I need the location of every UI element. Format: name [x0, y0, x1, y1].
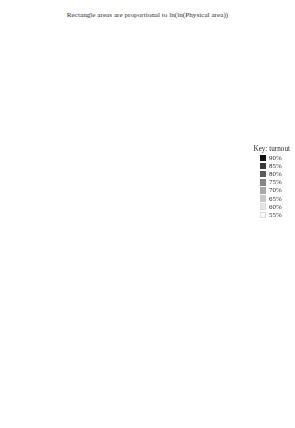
legend-item: 70% [204, 186, 292, 194]
legend-swatch [260, 187, 266, 193]
legend-label: 85% [269, 162, 292, 170]
legend-item: 80% [204, 170, 292, 178]
legend-swatch [260, 203, 266, 209]
legend-label: 80% [269, 170, 292, 178]
legend-swatch [260, 163, 266, 169]
legend-item: 85% [204, 162, 292, 170]
legend-title: Key: turnout [204, 145, 292, 154]
legend-label: 75% [269, 178, 292, 186]
legend-label: 70% [269, 186, 292, 194]
legend-label: 90% [269, 154, 292, 162]
cartogram-figure: Rectangle areas are proportional to ln(l… [0, 0, 295, 428]
legend: Key: turnout 90%85%80%75%70%65%60%55% [204, 145, 292, 219]
legend-swatch [260, 155, 266, 161]
legend-swatch [260, 171, 266, 177]
legend-item: 65% [204, 194, 292, 202]
legend-rows: 90%85%80%75%70%65%60%55% [204, 154, 292, 219]
legend-label: 65% [269, 195, 292, 203]
legend-label: 55% [269, 211, 292, 219]
legend-item: 90% [204, 154, 292, 162]
legend-item: 75% [204, 178, 292, 186]
legend-swatch [260, 212, 266, 218]
legend-label: 60% [269, 203, 292, 211]
legend-item: 55% [204, 211, 292, 219]
legend-item: 60% [204, 203, 292, 211]
legend-swatch [260, 195, 266, 201]
legend-swatch [260, 179, 266, 185]
